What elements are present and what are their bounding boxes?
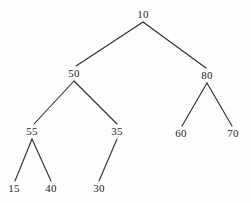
- tree-node-40: 40: [45, 183, 56, 194]
- tree-node-60: 60: [175, 128, 186, 139]
- binary-tree-diagram: 10508055356070154030: [0, 0, 251, 203]
- tree-edge-55-40: [32, 139, 51, 181]
- tree-edges-layer: [0, 0, 251, 203]
- tree-edge-10-80: [143, 22, 206, 68]
- tree-edge-80-60: [182, 83, 207, 126]
- edge-group: [15, 22, 232, 181]
- tree-node-80: 80: [201, 70, 212, 81]
- tree-node-10: 10: [137, 9, 148, 20]
- tree-node-30: 30: [93, 183, 104, 194]
- tree-edge-55-15: [15, 139, 32, 181]
- tree-edge-80-70: [207, 83, 232, 126]
- tree-node-50: 50: [68, 68, 79, 79]
- tree-node-35: 35: [111, 126, 122, 137]
- tree-edge-50-35: [74, 81, 117, 124]
- tree-node-55: 55: [26, 126, 37, 137]
- tree-edge-35-30: [99, 139, 117, 181]
- tree-edge-10-50: [76, 22, 143, 66]
- tree-node-70: 70: [227, 128, 238, 139]
- tree-node-15: 15: [8, 183, 19, 194]
- tree-edge-50-55: [34, 81, 74, 124]
